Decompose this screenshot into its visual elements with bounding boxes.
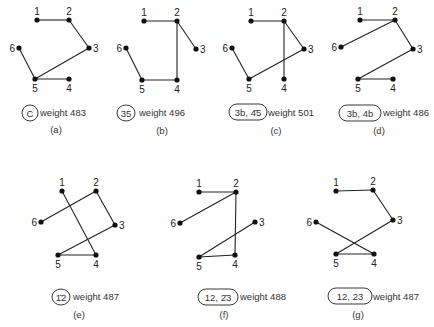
badge-text: 12, 2̄3 <box>205 292 231 303</box>
panel-g: 12345612, 23weight 487(g) <box>306 176 419 320</box>
node-5 <box>196 254 201 259</box>
edge-5-6 <box>19 48 35 79</box>
badge-text: 1̄2 <box>56 292 67 303</box>
node-3 <box>193 46 198 51</box>
node-label-1: 1 <box>248 7 254 18</box>
node-label-1: 1 <box>333 177 339 188</box>
node-label-1: 1 <box>357 6 363 17</box>
edge-3-5 <box>58 225 115 255</box>
node-1 <box>333 188 338 193</box>
node-label-3: 3 <box>308 44 314 55</box>
node-4 <box>232 252 237 257</box>
node-label-5: 5 <box>55 259 61 270</box>
node-2 <box>281 18 286 23</box>
badge-text: 3b, 4̄5 <box>235 107 261 118</box>
node-6 <box>313 219 318 224</box>
node-2 <box>233 189 238 194</box>
panel-caption: (f) <box>220 309 229 320</box>
node-5 <box>246 76 251 81</box>
edge-1-2 <box>336 190 373 191</box>
node-3 <box>390 217 395 222</box>
graph-diagram: 123456Cweight 483(a)12345635weight 496(b… <box>0 0 434 327</box>
edge-5-6 <box>126 48 142 80</box>
node-label-3: 3 <box>119 220 125 231</box>
panel-e: 1234561̄2weight 487(e) <box>31 177 125 320</box>
node-4 <box>93 252 98 257</box>
panel-b: 12345635weight 496(b) <box>116 7 206 136</box>
node-label-6: 6 <box>222 43 228 54</box>
node-3 <box>252 219 257 224</box>
node-label-4: 4 <box>371 258 377 269</box>
weight-label: weight 501 <box>267 107 314 118</box>
node-label-4: 4 <box>93 259 99 270</box>
edge-2-3 <box>373 190 393 220</box>
node-6 <box>229 45 234 50</box>
node-label-4: 4 <box>281 83 287 94</box>
weight-label: weight 496 <box>138 107 185 118</box>
node-label-5: 5 <box>246 83 252 94</box>
weight-label: weight 483 <box>39 107 86 118</box>
node-1 <box>59 188 64 193</box>
node-6 <box>177 220 182 225</box>
node-3 <box>112 222 117 227</box>
panel-caption: (d) <box>373 125 385 136</box>
node-label-2: 2 <box>233 178 239 189</box>
node-label-2: 2 <box>174 7 180 18</box>
node-label-5: 5 <box>355 83 361 94</box>
node-label-5: 5 <box>139 84 145 95</box>
node-6 <box>38 219 43 224</box>
node-label-6: 6 <box>9 43 15 54</box>
badge-text: 35 <box>121 108 132 119</box>
edge-3-5 <box>35 48 89 79</box>
panel-f: 12345612, 2̄3weight 488(f) <box>170 178 286 320</box>
edge-5-3 <box>199 222 255 257</box>
node-1 <box>34 17 39 22</box>
edge-2-3 <box>96 191 115 225</box>
edge-3-5 <box>358 49 413 79</box>
node-3 <box>86 45 91 50</box>
node-2 <box>392 17 397 22</box>
weight-label: weight 488 <box>239 291 286 302</box>
panel-caption: (b) <box>156 125 168 136</box>
edge-2-6 <box>41 191 96 222</box>
panel-d: 1234563b, 4bweight 486(d) <box>331 6 429 136</box>
node-label-2: 2 <box>281 7 287 18</box>
node-label-4: 4 <box>174 84 180 95</box>
node-5 <box>355 76 360 81</box>
node-3 <box>301 46 306 51</box>
node-6 <box>16 45 21 50</box>
node-label-1: 1 <box>59 177 65 188</box>
edge-2-6 <box>180 192 236 223</box>
node-label-5: 5 <box>32 83 38 94</box>
panel-caption: (c) <box>270 125 281 136</box>
panel-caption: (a) <box>50 124 62 135</box>
node-6 <box>338 44 343 49</box>
node-2 <box>174 18 179 23</box>
node-4 <box>281 76 286 81</box>
node-label-1: 1 <box>34 6 40 17</box>
node-2 <box>370 187 375 192</box>
edge-2-3 <box>395 20 413 49</box>
node-label-1: 1 <box>196 178 202 189</box>
edge-2-4 <box>235 192 236 255</box>
node-label-6: 6 <box>331 42 337 53</box>
node-label-5: 5 <box>333 258 339 269</box>
node-label-4: 4 <box>390 83 396 94</box>
panel-c: 1234563b, 4̄5weight 501(c) <box>222 7 314 136</box>
edge-2-3 <box>284 21 304 49</box>
edge-2-6 <box>341 20 395 47</box>
weight-label: weight 487 <box>72 291 119 302</box>
node-1 <box>141 18 146 23</box>
node-2 <box>66 17 71 22</box>
node-label-6: 6 <box>116 43 122 54</box>
weight-label: weight 486 <box>382 107 429 118</box>
node-3 <box>410 46 415 51</box>
node-5 <box>333 251 338 256</box>
node-label-3: 3 <box>397 215 403 226</box>
node-4 <box>66 76 71 81</box>
node-label-3: 3 <box>200 44 206 55</box>
node-label-3: 3 <box>259 217 265 228</box>
node-label-2: 2 <box>392 6 398 17</box>
badge-text: C <box>27 108 34 119</box>
node-5 <box>32 76 37 81</box>
